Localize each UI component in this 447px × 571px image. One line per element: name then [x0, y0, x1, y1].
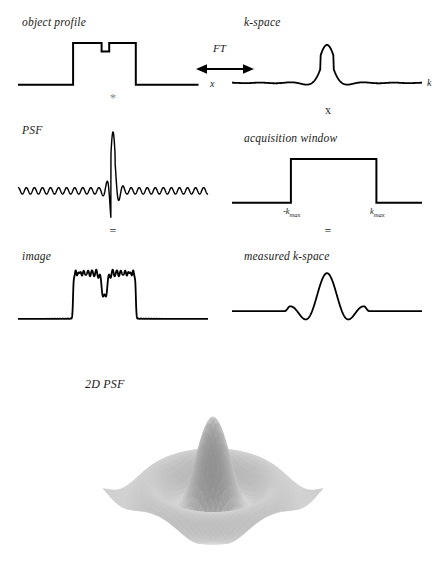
label-image: image [22, 250, 51, 262]
neg-kmax-sub: max [290, 211, 301, 218]
axis-label-neg-kmax: -kmax [283, 206, 300, 218]
label-object-profile: object profile [22, 16, 86, 28]
operator-equals-left: = [101, 224, 125, 239]
plot-2d-psf-surface [63, 383, 363, 563]
k-space-curve [232, 45, 422, 85]
operator-equals-right: = [316, 224, 340, 239]
acquisition-window-curve [232, 159, 422, 203]
plot-measured-k-space [232, 262, 422, 330]
measured-k-space-curve [232, 273, 422, 319]
image-curve [18, 270, 208, 319]
ft-double-arrow-icon [196, 62, 254, 80]
plot-k-space [232, 32, 422, 92]
label-measured-k-space: measured k-space [244, 250, 329, 262]
plot-psf [18, 122, 208, 216]
operator-convolution: * [101, 90, 125, 106]
neg-kmax-text: -k [283, 206, 290, 216]
axis-label-kmax: kmax [370, 206, 385, 218]
object-profile-curve [18, 43, 199, 85]
axis-label-k: k [427, 77, 431, 88]
plot-acquisition-window [232, 148, 422, 210]
label-acquisition-window: acquisition window [244, 132, 337, 144]
kmax-sub: max [374, 211, 385, 218]
plot-image [18, 262, 208, 330]
label-k-space: k-space [244, 16, 281, 28]
psf-curve [18, 132, 208, 217]
label-fourier-transform: FT [213, 42, 226, 54]
operator-multiplication: x [316, 103, 340, 118]
plot-object-profile [18, 30, 208, 92]
